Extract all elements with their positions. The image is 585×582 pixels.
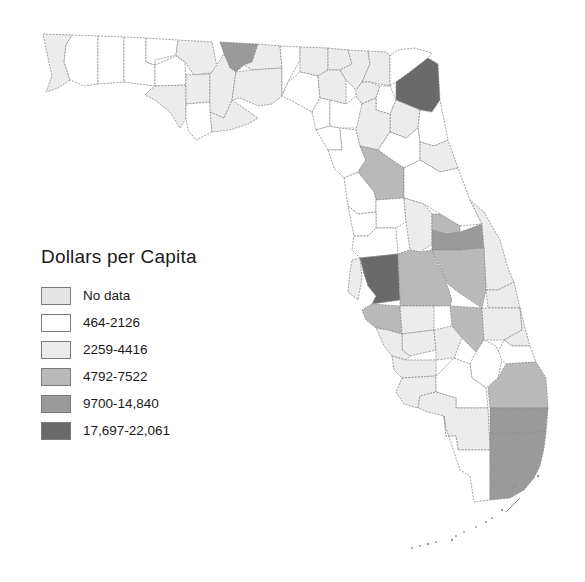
legend-title: Dollars per Capita (41, 246, 197, 268)
legend-item-class-5: 17,697-22,061 (41, 417, 197, 444)
legend-item-no-data: No data (41, 282, 197, 309)
county-bay (145, 85, 186, 128)
legend-item-class-2: 2259-4416 (41, 336, 197, 363)
legend-item-class-4: 9700-14,840 (41, 390, 197, 417)
county-hillsborough (360, 254, 400, 304)
legend-swatch (41, 422, 71, 440)
county-calhoun (186, 74, 210, 104)
legend-item-class-3: 4792-7522 (41, 363, 197, 390)
county-wakulla (232, 68, 282, 106)
legend-label: 2259-4416 (83, 342, 148, 357)
county-madison (300, 47, 328, 76)
county-gulf (186, 102, 212, 140)
legend: Dollars per Capita No data 464-2126 2259… (41, 246, 197, 444)
legend-label: No data (83, 288, 130, 303)
legend-item-class-1: 464-2126 (41, 309, 197, 336)
legend-swatch (41, 287, 71, 305)
legend-label: 4792-7522 (83, 369, 148, 384)
county-miami-dade (490, 432, 546, 500)
legend-label: 9700-14,840 (83, 396, 159, 411)
county-okaloosa (98, 36, 124, 84)
county-desoto (402, 330, 436, 356)
legend-swatch (41, 395, 71, 413)
legend-swatch (41, 341, 71, 359)
county-dixie (316, 126, 342, 150)
legend-label: 464-2126 (83, 315, 140, 330)
county-broward (490, 408, 548, 434)
legend-swatch (41, 368, 71, 386)
county-charlotte (392, 356, 436, 378)
county-pinellas (348, 258, 362, 300)
county-hardee (400, 306, 434, 334)
county-sumter (376, 198, 406, 228)
legend-swatch (41, 314, 71, 332)
legend-label: 17,697-22,061 (83, 423, 170, 438)
county-washington (155, 56, 186, 86)
